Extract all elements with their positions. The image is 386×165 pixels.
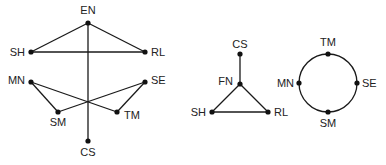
graph-middle-edge-fn-rl <box>240 84 268 112</box>
graph-middle-label-rl: RL <box>274 106 288 118</box>
graph-middle-label-fn: FN <box>218 75 233 87</box>
nodes-layer <box>28 20 359 143</box>
graph-left-label-cs: CS <box>80 146 95 158</box>
graph-left-node-sm <box>55 109 60 114</box>
graph-left-label-mn: MN <box>8 74 25 86</box>
graph-left-label-sm: SM <box>50 116 67 128</box>
graph-left-node-se <box>142 79 147 84</box>
edges-layer <box>31 23 357 141</box>
graph-right-node-se <box>354 80 359 85</box>
graph-middle-node-fn <box>237 81 242 86</box>
graph-middle-node-cs <box>237 51 242 56</box>
graph-left-node-mn <box>28 79 33 84</box>
graph-left-node-cs <box>85 138 90 143</box>
graph-right-ring-edge <box>299 54 357 112</box>
graph-right-label-mn: MN <box>277 77 294 89</box>
graph-right-node-mn <box>296 80 301 85</box>
graph-middle-edge-fn-sh <box>212 84 240 112</box>
graph-left-node-tm <box>114 109 119 114</box>
graph-left-label-en: EN <box>80 4 95 16</box>
graph-left-edge-en-rl <box>88 23 145 52</box>
graph-diagram: ENSHRLMNSESMTMCSCSFNSHRLTMMNSESM <box>0 0 386 165</box>
graph-middle-label-sh: SH <box>191 106 206 118</box>
graph-left-label-tm: TM <box>124 109 140 121</box>
graph-middle-node-sh <box>209 109 214 114</box>
graph-left-label-rl: RL <box>151 46 165 58</box>
graph-left-label-sh: SH <box>10 46 25 58</box>
graph-left-edge-en-sh <box>31 23 88 52</box>
graph-left-node-en <box>85 20 90 25</box>
graph-left-node-sh <box>28 49 33 54</box>
labels-layer: ENSHRLMNSESMTMCSCSFNSHRLTMMNSESM <box>8 4 377 158</box>
graph-middle-node-rl <box>265 109 270 114</box>
graph-left-edge-se-sm <box>58 82 145 112</box>
graph-left-node-rl <box>142 49 147 54</box>
graph-right-node-tm <box>325 51 330 56</box>
graph-right-label-se: SE <box>362 77 377 89</box>
graph-middle-label-cs: CS <box>232 38 247 50</box>
graph-right-node-sm <box>325 109 330 114</box>
graph-right-label-tm: TM <box>320 36 336 48</box>
graph-left-label-se: SE <box>151 74 166 86</box>
graph-right-label-sm: SM <box>320 117 337 129</box>
